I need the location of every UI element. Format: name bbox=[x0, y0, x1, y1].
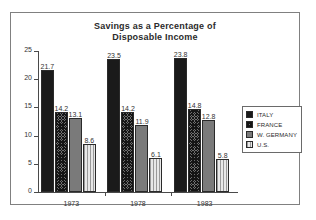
chart-title-line-1: Savings as a Percentage of bbox=[11, 21, 299, 32]
legend-swatch-icon bbox=[246, 121, 253, 128]
y-tick-label: 20 bbox=[24, 74, 32, 81]
y-tick-mark bbox=[34, 192, 39, 193]
legend-swatch-icon bbox=[246, 141, 253, 148]
legend-item-u-s[interactable]: U.S. bbox=[246, 140, 299, 149]
bar-value-label: 21.7 bbox=[41, 63, 55, 70]
bar-italy-1973: 21.7 bbox=[41, 70, 54, 192]
y-tick-label: 10 bbox=[24, 131, 32, 138]
bar-group-1978: 23.514.211.96.11978 bbox=[105, 51, 172, 192]
bar-group-1973: 21.714.213.18.61973 bbox=[38, 51, 105, 192]
bar-value-label: 14.2 bbox=[121, 105, 135, 112]
bar-value-label: 5.8 bbox=[218, 152, 228, 159]
chart-frame: Savings as a Percentage of Disposable In… bbox=[10, 12, 300, 205]
bar-u-s-1978: 6.1 bbox=[149, 158, 162, 192]
bar-value-label: 12.8 bbox=[202, 113, 216, 120]
bar-group-1983: 23.814.812.85.81983 bbox=[171, 51, 238, 192]
legend-swatch-icon bbox=[246, 111, 253, 118]
bar-value-label: 14.2 bbox=[55, 105, 69, 112]
legend-item-label: FRANCE bbox=[257, 122, 282, 128]
x-tick-mark bbox=[105, 192, 106, 196]
chart-title: Savings as a Percentage of Disposable In… bbox=[11, 21, 299, 43]
bar-value-label: 6.1 bbox=[151, 151, 161, 158]
bar-france-1983: 14.8 bbox=[188, 109, 201, 192]
x-axis-line bbox=[38, 192, 238, 193]
y-tick-label: 25 bbox=[24, 46, 32, 53]
bar-value-label: 11.9 bbox=[135, 118, 148, 125]
bar-w-germany-1973: 13.1 bbox=[69, 118, 82, 192]
legend-swatch-icon bbox=[246, 131, 253, 138]
chart-title-line-2: Disposable Income bbox=[11, 32, 299, 43]
x-tick-label-1978: 1978 bbox=[105, 200, 172, 207]
x-tick-label-1973: 1973 bbox=[38, 200, 105, 207]
chart-legend: ITALYFRANCEW. GERMANYU.S. bbox=[242, 106, 302, 153]
bar-value-label: 8.6 bbox=[84, 137, 94, 144]
legend-item-italy[interactable]: ITALY bbox=[246, 110, 299, 119]
bar-u-s-1983: 5.8 bbox=[216, 159, 229, 192]
y-tick-0: 0 bbox=[38, 192, 39, 193]
y-tick-label: 15 bbox=[24, 102, 32, 109]
bar-w-germany-1983: 12.8 bbox=[202, 120, 215, 192]
bar-value-label: 23.5 bbox=[107, 52, 121, 59]
bar-u-s-1973: 8.6 bbox=[83, 144, 96, 193]
bar-w-germany-1978: 11.9 bbox=[135, 125, 148, 192]
x-tick-label-1983: 1983 bbox=[171, 200, 238, 207]
plot-area: 0510152025 21.714.213.18.6197323.514.211… bbox=[38, 51, 238, 193]
bar-france-1973: 14.2 bbox=[55, 112, 68, 192]
bar-value-label: 14.8 bbox=[188, 102, 202, 109]
bar-value-label: 13.1 bbox=[69, 111, 83, 118]
legend-item-w-germany[interactable]: W. GERMANY bbox=[246, 130, 299, 139]
y-tick-label: 5 bbox=[28, 159, 32, 166]
bar-value-label: 23.8 bbox=[174, 51, 188, 58]
legend-item-label: U.S. bbox=[257, 142, 269, 148]
y-tick-label: 0 bbox=[28, 187, 32, 194]
x-tick-mark bbox=[171, 192, 172, 196]
bar-italy-1978: 23.5 bbox=[107, 59, 120, 192]
legend-item-france[interactable]: FRANCE bbox=[246, 120, 299, 129]
bar-italy-1983: 23.8 bbox=[174, 58, 187, 192]
legend-item-label: ITALY bbox=[257, 112, 273, 118]
bar-france-1978: 14.2 bbox=[121, 112, 134, 192]
legend-item-label: W. GERMANY bbox=[257, 132, 297, 138]
